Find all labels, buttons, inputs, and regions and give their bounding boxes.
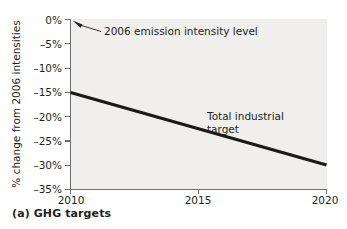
line-chart: 0% –5% –10% –15% –20% –25% –30% –35% 201… — [0, 0, 347, 205]
y-tick-label: –15% — [33, 86, 62, 98]
x-tick-label: 2020 — [312, 194, 339, 205]
x-tick-label: 2015 — [185, 194, 212, 205]
y-tick-label: –10% — [33, 62, 62, 74]
figure-ghg-targets: 0% –5% –10% –15% –20% –25% –30% –35% 201… — [0, 0, 347, 229]
annotation-series-label-line1: Total industrial — [206, 110, 284, 122]
y-tick-label: –30% — [33, 159, 62, 171]
y-tick-label: 0% — [45, 14, 62, 26]
y-tick-label: –20% — [33, 111, 62, 123]
figure-caption: (a) GHG targets — [12, 207, 111, 220]
annotation-series-label-line2: target — [207, 123, 239, 135]
annotation-baseline-label: 2006 emission intensity level — [104, 25, 258, 37]
x-tick-label: 2010 — [58, 194, 85, 205]
y-tick-label: –5% — [40, 38, 62, 50]
y-axis-ticks — [65, 20, 70, 190]
y-tick-label: –25% — [33, 135, 62, 147]
y-axis-title: % change from 2006 intensities — [10, 20, 22, 187]
